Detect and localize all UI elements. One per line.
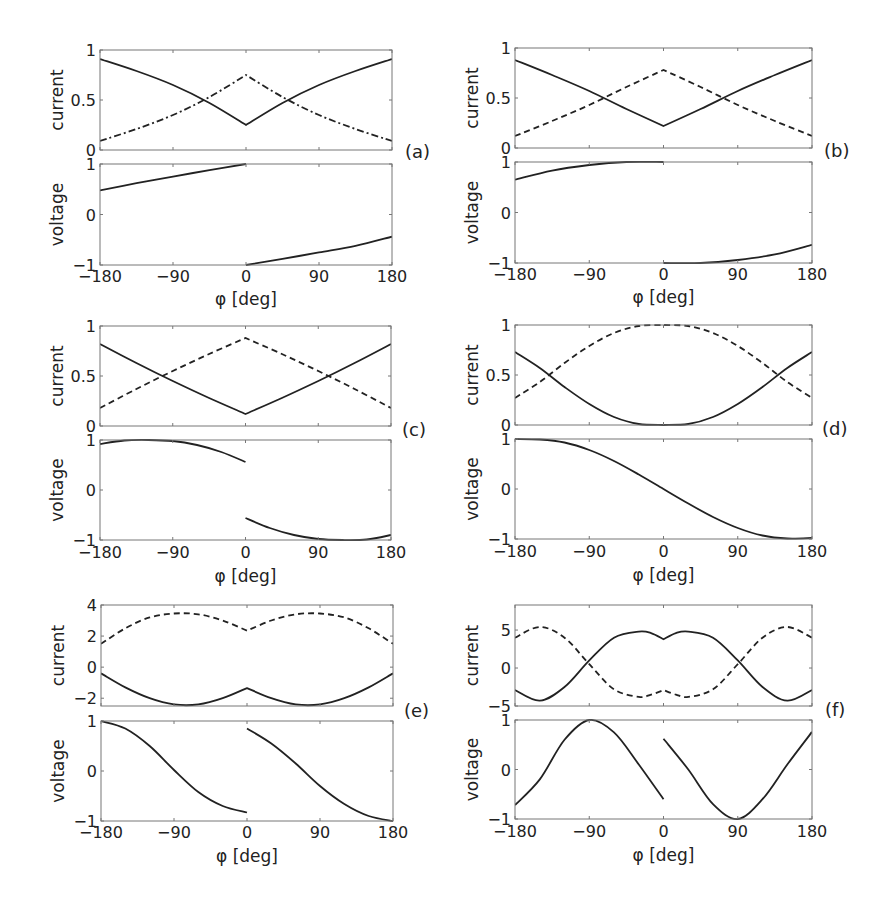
x-tick-label: 0 [658, 265, 668, 284]
axes-frame [515, 48, 812, 148]
panel-f: −505current−101voltage−180−90090180φ [de… [462, 605, 845, 865]
series-solid-right [246, 518, 392, 540]
series-solid-right [247, 729, 393, 822]
series-dashed [101, 613, 393, 644]
y-tick-label: 0 [87, 658, 97, 677]
x-tick-label: 90 [728, 822, 748, 841]
x-tick-label: 0 [241, 267, 251, 286]
series-solid [515, 439, 812, 539]
x-tick-label: 180 [378, 823, 409, 842]
y-tick-label: 0.5 [71, 91, 96, 110]
series-solid-left [100, 164, 246, 190]
current-axis-label: current [48, 625, 68, 687]
series-solid [515, 631, 812, 700]
x-tick-label: 180 [376, 543, 407, 562]
series-dashed [515, 325, 812, 398]
current-axis-label: current [462, 344, 482, 406]
x-tick-label: 90 [308, 543, 328, 562]
x-tick-label: −90 [156, 543, 190, 562]
axes-frame [100, 164, 392, 265]
series-dashed [515, 627, 812, 697]
x-tick-label: −180 [493, 265, 537, 284]
series-solid [515, 352, 812, 425]
series-solid-right [664, 732, 813, 819]
panel-tag: (f) [825, 699, 845, 720]
x-tick-label: 0 [658, 822, 668, 841]
y-tick-label: 1 [501, 316, 511, 335]
y-tick-label: 0 [501, 659, 511, 678]
voltage-axes: −101voltage [47, 155, 392, 275]
x-tick-label: −90 [572, 265, 606, 284]
voltage-axis-label: voltage [47, 458, 67, 522]
x-axis-label: φ [deg] [216, 846, 278, 866]
x-tick-label: −180 [79, 823, 123, 842]
series-solid-left [515, 720, 664, 805]
x-tick-label: −180 [78, 543, 122, 562]
x-tick-label: 90 [310, 823, 330, 842]
axes-frame [101, 605, 393, 706]
y-tick-label: 0 [501, 761, 511, 780]
voltage-axes: −101voltage [462, 153, 812, 273]
x-axis-label: φ [deg] [633, 565, 695, 585]
voltage-axis-label: voltage [47, 183, 67, 247]
y-tick-label: 1 [501, 711, 511, 730]
x-tick-label: 90 [309, 267, 329, 286]
y-tick-label: 0.5 [486, 366, 511, 385]
y-tick-label: 1 [87, 712, 97, 731]
y-tick-label: 1 [86, 317, 96, 336]
voltage-axis-label: voltage [462, 457, 482, 521]
series-solid [100, 59, 392, 125]
y-tick-label: 0 [86, 206, 96, 225]
series-dash-dot [100, 75, 392, 141]
voltage-axis-label: voltage [462, 738, 482, 802]
x-tick-label: 180 [797, 542, 828, 561]
panel-a: 00.51current−101voltage−180−90090180φ [d… [47, 41, 430, 309]
axes-frame [100, 440, 391, 540]
current-axes: −505current [462, 605, 812, 716]
voltage-axes: −101voltage [47, 431, 391, 550]
x-tick-label: −180 [493, 822, 537, 841]
y-tick-label: 1 [86, 41, 96, 60]
voltage-axes: −101voltage [48, 712, 393, 831]
axes-frame [515, 162, 812, 263]
y-tick-label: 4 [87, 596, 97, 615]
x-tick-label: 0 [242, 823, 252, 842]
series-solid-left [101, 721, 247, 813]
x-axis-label: φ [deg] [215, 566, 277, 586]
y-tick-label: 0 [87, 762, 97, 781]
y-tick-label: 1 [86, 431, 96, 450]
current-axes: −2024current [48, 596, 393, 708]
panel-d: 00.51current−101voltage−180−90090180φ [d… [462, 316, 847, 585]
x-tick-label: −90 [156, 267, 190, 286]
y-tick-label: 0.5 [71, 367, 96, 386]
y-tick-label: 1 [501, 39, 511, 58]
y-tick-label: 1 [86, 155, 96, 174]
axes-frame [515, 720, 812, 819]
x-tick-label: 0 [658, 542, 668, 561]
y-tick-label: 0 [501, 480, 511, 499]
current-axis-label: current [47, 69, 67, 131]
x-tick-label: −90 [572, 542, 606, 561]
current-axis-label: current [47, 345, 67, 407]
current-axes: 00.51current [47, 41, 392, 160]
axes-frame [515, 325, 812, 425]
x-tick-label: 90 [728, 542, 748, 561]
x-tick-label: −180 [78, 267, 122, 286]
series-dashed [100, 338, 391, 408]
panel-e: −2024current−101voltage−180−90090180φ [d… [48, 596, 429, 866]
figure-canvas: 00.51current−101voltage−180−90090180φ [d… [0, 0, 892, 914]
voltage-axes: −101voltage [462, 430, 812, 549]
x-axis-label: φ [deg] [215, 289, 277, 309]
voltage-axis-label: voltage [48, 739, 68, 803]
x-tick-label: −90 [572, 822, 606, 841]
series-solid [100, 344, 391, 414]
x-axis-label: φ [deg] [633, 845, 695, 865]
x-tick-label: −90 [157, 823, 191, 842]
y-tick-label: 5 [501, 621, 511, 640]
x-tick-label: 180 [377, 267, 408, 286]
voltage-axes: −101voltage [462, 711, 812, 829]
x-tick-label: 0 [240, 543, 250, 562]
panel-tag: (c) [402, 419, 426, 440]
series-solid [101, 673, 393, 705]
panel-tag: (d) [822, 418, 847, 439]
